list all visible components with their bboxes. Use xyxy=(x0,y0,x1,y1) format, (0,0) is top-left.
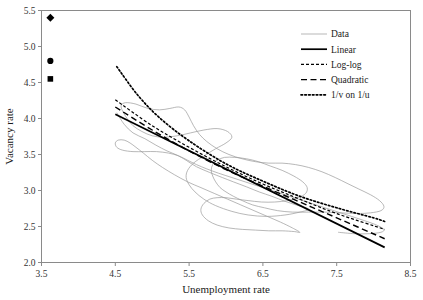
series-data xyxy=(115,103,384,234)
y-tick-label: 3.0 xyxy=(24,186,36,196)
x-tick-label: 5.5 xyxy=(183,269,195,279)
square-marker xyxy=(48,76,54,82)
y-axis-label: Vacancy rate xyxy=(3,108,15,165)
circle-marker xyxy=(47,58,53,64)
x-tick-label: 7.5 xyxy=(331,269,343,279)
x-axis-tick-labels: 3.54.55.56.57.58.5 xyxy=(36,269,417,279)
x-axis-label: Unemployment rate xyxy=(182,283,270,295)
y-tick-label: 3.5 xyxy=(24,150,36,160)
beveridge-curve-figure: 3.54.55.56.57.58.5 2.02.53.03.54.04.55.0… xyxy=(0,0,423,300)
legend-label-data: Data xyxy=(331,29,350,39)
y-tick-label: 4.5 xyxy=(24,78,36,88)
y-tick-label: 5.5 xyxy=(24,6,36,16)
legend: DataLinearLog-logQuadratic1/v on 1/u xyxy=(301,29,370,100)
x-axis-tick-marks xyxy=(42,263,411,267)
legend-label-1-v-on-1-u: 1/v on 1/u xyxy=(331,90,370,100)
x-tick-label: 8.5 xyxy=(405,269,417,279)
legend-label-log-log: Log-log xyxy=(331,60,362,70)
legend-label-linear: Linear xyxy=(331,45,357,55)
y-tick-label: 4.0 xyxy=(24,114,36,124)
chart-canvas: 3.54.55.56.57.58.5 2.02.53.03.54.04.55.0… xyxy=(0,0,423,300)
x-tick-label: 6.5 xyxy=(257,269,269,279)
isolated-marker-points xyxy=(46,14,54,82)
diamond-marker xyxy=(46,14,54,22)
y-tick-label: 5.0 xyxy=(24,42,36,52)
y-axis-tick-marks xyxy=(38,11,42,263)
data-series-paths xyxy=(115,103,384,234)
legend-label-quadratic: Quadratic xyxy=(331,75,368,85)
series-quadratic xyxy=(115,107,384,239)
x-tick-label: 3.5 xyxy=(36,269,48,279)
y-tick-label: 2.5 xyxy=(24,222,36,232)
y-axis-tick-labels: 2.02.53.03.54.04.55.05.5 xyxy=(24,6,36,268)
y-tick-label: 2.0 xyxy=(24,258,36,268)
x-tick-label: 4.5 xyxy=(109,269,121,279)
